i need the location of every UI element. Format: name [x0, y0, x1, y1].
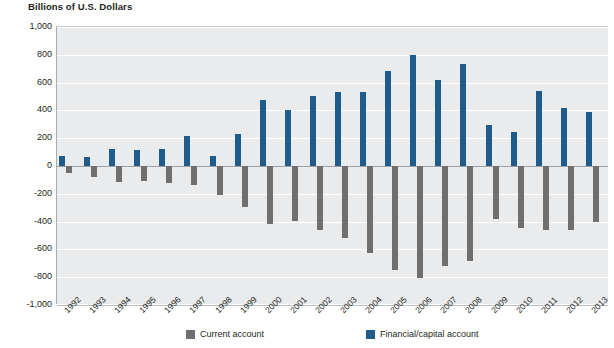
bar [292, 166, 298, 221]
y-axis-tick-label: 200 [4, 132, 52, 142]
bar [417, 166, 423, 278]
bar [518, 166, 524, 228]
bar-group [559, 27, 584, 305]
legend-item-current-account: Current account [186, 329, 264, 339]
bar-group [258, 27, 283, 305]
bar [166, 166, 172, 183]
bar [285, 110, 291, 166]
bar [84, 157, 90, 166]
bar-group [182, 27, 207, 305]
bar-group [383, 27, 408, 305]
bar [134, 150, 140, 166]
bar-group [57, 27, 82, 305]
bar-group [584, 27, 609, 305]
y-axis-tick-label: -200 [4, 188, 52, 198]
bar [385, 71, 391, 166]
y-axis-tick-label: 600 [4, 77, 52, 87]
bar [116, 166, 122, 182]
bar [536, 91, 542, 166]
bar-group [132, 27, 157, 305]
bar [317, 166, 323, 230]
bar [66, 166, 72, 173]
bar [217, 166, 223, 195]
y-axis-tick-label: 1,000 [4, 21, 52, 31]
bar [543, 166, 549, 230]
plot-area [56, 26, 608, 304]
y-axis-tick-label: 800 [4, 49, 52, 59]
bar [442, 166, 448, 266]
bar [568, 166, 574, 230]
y-axis-tick-label: -1,000 [4, 299, 52, 309]
bar [335, 92, 341, 166]
bar [467, 166, 473, 261]
y-axis-tick-label: -600 [4, 243, 52, 253]
y-axis-tick-label: -400 [4, 216, 52, 226]
legend-item-financial-capital-account: Financial/capital account [366, 329, 479, 339]
bar [360, 92, 366, 166]
bar [235, 134, 241, 166]
y-axis-tick-label: 400 [4, 104, 52, 114]
bar [460, 64, 466, 166]
bar-group [107, 27, 132, 305]
bar [91, 166, 97, 177]
bar [109, 149, 115, 166]
bar [267, 166, 273, 224]
bar [59, 156, 65, 166]
bar [561, 108, 567, 166]
y-axis-tick-label: 0 [4, 160, 52, 170]
bar-group [82, 27, 107, 305]
bar [342, 166, 348, 238]
legend-label-financial-capital-account: Financial/capital account [380, 329, 479, 339]
bar [511, 132, 517, 166]
bar [242, 166, 248, 207]
chart-title: Billions of U.S. Dollars [28, 1, 132, 12]
y-axis-tick-label: -800 [4, 271, 52, 281]
bar-group [157, 27, 182, 305]
bar [493, 166, 499, 219]
balance-of-payments-chart: Billions of U.S. Dollars 1,0008006004002… [0, 0, 614, 348]
bar-group [534, 27, 559, 305]
bar-group [458, 27, 483, 305]
bar [435, 80, 441, 166]
legend-swatch-financial-capital-account [366, 330, 375, 339]
bar [410, 55, 416, 166]
legend-label-current-account: Current account [200, 329, 264, 339]
bar [141, 166, 147, 181]
bar-group [408, 27, 433, 305]
bar-group [509, 27, 534, 305]
bar [593, 166, 599, 222]
bar-group [358, 27, 383, 305]
bar [586, 112, 592, 166]
bar [159, 149, 165, 166]
bar-group [208, 27, 233, 305]
bar [184, 136, 190, 166]
legend-swatch-current-account [186, 330, 195, 339]
bar-group [333, 27, 358, 305]
bar-group [484, 27, 509, 305]
y-axis-labels: 1,0008006004002000-200-400-600-800-1,000 [0, 26, 52, 304]
bar-group [308, 27, 333, 305]
bar [260, 100, 266, 166]
bar [392, 166, 398, 270]
bar [210, 156, 216, 166]
chart-legend: Current account Financial/capital accoun… [0, 329, 614, 345]
bar-group [283, 27, 308, 305]
bar [367, 166, 373, 253]
bar [486, 125, 492, 166]
bar [310, 96, 316, 166]
bar [191, 166, 197, 185]
bar-group [433, 27, 458, 305]
bar-group [233, 27, 258, 305]
